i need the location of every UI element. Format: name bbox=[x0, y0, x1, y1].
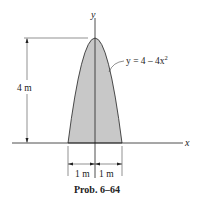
arrow-left-icon bbox=[68, 163, 73, 166]
right-width-label: 1 m bbox=[99, 169, 114, 179]
height-dimension-label: 4 m bbox=[17, 83, 32, 93]
curve-equation-exponent: 2 bbox=[165, 54, 168, 61]
left-width-label: 1 m bbox=[75, 169, 90, 179]
arrow-up-icon bbox=[26, 38, 29, 43]
arrow-down-icon bbox=[26, 138, 29, 143]
curve-equation-label: y = 4 – 4x2 bbox=[126, 54, 168, 66]
y-axis-label: y bbox=[90, 9, 96, 20]
arrow-left-icon bbox=[95, 163, 100, 166]
parabola-diagram: y x y = 4 – 4x2 4 m 1 m 1 m Prob. 6–64 bbox=[0, 0, 200, 198]
curve-leader-line bbox=[109, 61, 124, 72]
arrow-right-icon bbox=[90, 163, 95, 166]
diagram-figure: y x y = 4 – 4x2 4 m 1 m 1 m Prob. 6–64 bbox=[0, 0, 200, 198]
arrow-right-icon bbox=[117, 163, 122, 166]
curve-equation: y = 4 – 4x bbox=[126, 56, 165, 66]
figure-caption: Prob. 6–64 bbox=[74, 184, 120, 195]
x-axis-label: x bbox=[184, 137, 190, 148]
